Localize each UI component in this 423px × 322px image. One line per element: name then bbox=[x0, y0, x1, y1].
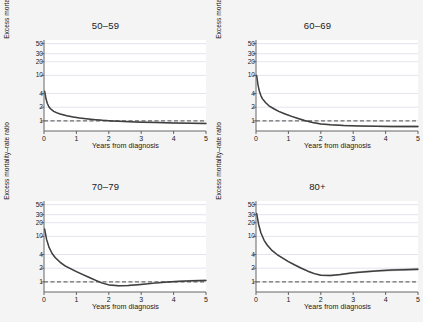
plot-area bbox=[0, 0, 211, 161]
panel-1: 60–69 Excess mortality–rate ratio 124102… bbox=[212, 0, 423, 161]
plot-svg bbox=[0, 0, 211, 161]
plot-svg bbox=[212, 0, 423, 161]
plot-area bbox=[0, 161, 211, 322]
plot-svg bbox=[212, 161, 423, 322]
plot-area bbox=[212, 161, 423, 322]
plot-svg bbox=[0, 161, 211, 322]
panel-2: 70–79 Excess mortality–rate ratio 124102… bbox=[0, 161, 211, 322]
panel-0: 50–59 Excess mortality–rate ratio 124102… bbox=[0, 0, 211, 161]
figure-canvas: 50–59 Excess mortality–rate ratio 124102… bbox=[0, 0, 423, 322]
plot-area bbox=[212, 0, 423, 161]
panel-3: 80+ Excess mortality–rate ratio 12410203… bbox=[212, 161, 423, 322]
